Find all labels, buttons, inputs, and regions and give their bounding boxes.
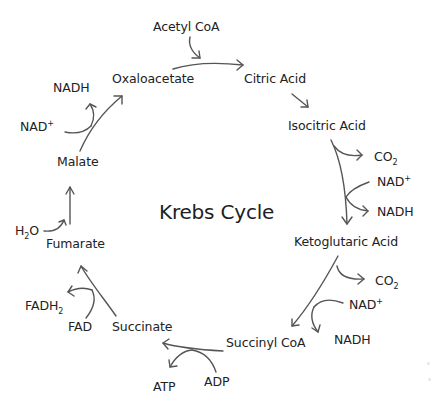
label-citric-acid: Citric Acid: [244, 72, 306, 86]
h2o-h: H: [15, 223, 24, 238]
arrow-ketoglutaric-succinylcoa: [292, 256, 338, 326]
label-co2-1: CO2: [374, 150, 397, 166]
label-fumarate: Fumarate: [46, 237, 105, 251]
h2o-o: O: [29, 223, 39, 238]
label-succinyl-coa: Succinyl CoA: [226, 336, 306, 350]
label-nad-plus-3: NAD+: [20, 120, 54, 136]
arrow-fad: [86, 290, 94, 318]
fadh2-subscript: 2: [58, 307, 63, 316]
label-nadh-3: NADH: [53, 81, 90, 95]
background-speck: [427, 362, 430, 365]
co2-subscript: 2: [393, 282, 398, 291]
nad-base: NAD: [20, 119, 47, 134]
label-malate: Malate: [57, 155, 99, 169]
arrow-malate-oxaloacetate: [80, 96, 122, 151]
label-fad: FAD: [68, 320, 92, 334]
arrow-nad-2: [314, 300, 343, 307]
arrow-adp: [192, 350, 216, 372]
diagram-title: Krebs Cycle: [159, 200, 274, 224]
arrow-acetylcoa: [190, 37, 200, 58]
label-isocitric-acid: Isocitric Acid: [288, 119, 366, 133]
label-ketoglutaric-acid: Ketoglutaric Acid: [294, 235, 398, 249]
arrow-nad-3: [65, 126, 91, 133]
label-h2o: H2O: [15, 224, 39, 240]
nad-base: NAD: [349, 297, 376, 312]
label-nad-plus-1: NAD+: [377, 175, 411, 191]
arrow-isocitric-ketoglutaric: [331, 140, 347, 224]
label-nadh-1: NADH: [377, 205, 414, 219]
co2-base: CO: [375, 273, 393, 288]
arrow-nadh-1: [346, 197, 368, 211]
nad-superscript: +: [404, 174, 411, 183]
h2o-subscript: 2: [24, 232, 29, 241]
krebs-cycle-diagram: Krebs Cycle Oxaloacetate Citric Acid Iso…: [0, 0, 435, 408]
co2-base: CO: [374, 149, 392, 164]
arrow-atp: [170, 350, 192, 367]
nad-superscript: +: [47, 119, 54, 128]
fadh2-base: FADH: [25, 298, 58, 313]
label-nadh-2: NADH: [334, 333, 371, 347]
label-oxaloacetate: Oxaloacetate: [112, 72, 194, 86]
background-speck: [428, 378, 431, 381]
label-atp: ATP: [153, 380, 175, 394]
label-acetyl-coa: Acetyl CoA: [153, 20, 220, 34]
label-fadh2: FADH2: [25, 299, 63, 315]
arrow-oxaloacetate-citric: [173, 64, 243, 69]
label-nad-plus-2: NAD+: [349, 298, 383, 314]
label-adp: ADP: [204, 375, 229, 389]
nad-superscript: +: [376, 297, 383, 306]
co2-subscript: 2: [392, 158, 397, 167]
arrow-fadh2: [68, 288, 92, 292]
label-co2-2: CO2: [375, 274, 398, 290]
nad-base: NAD: [377, 174, 404, 189]
arrow-nad-1: [346, 182, 369, 197]
arrow-nadh-3: [90, 104, 94, 126]
arrow-citric-isocitric: [292, 94, 308, 107]
label-succinate: Succinate: [112, 320, 172, 334]
arrow-succinate-fumarate: [81, 266, 116, 316]
arrow-co2-2: [337, 266, 364, 279]
